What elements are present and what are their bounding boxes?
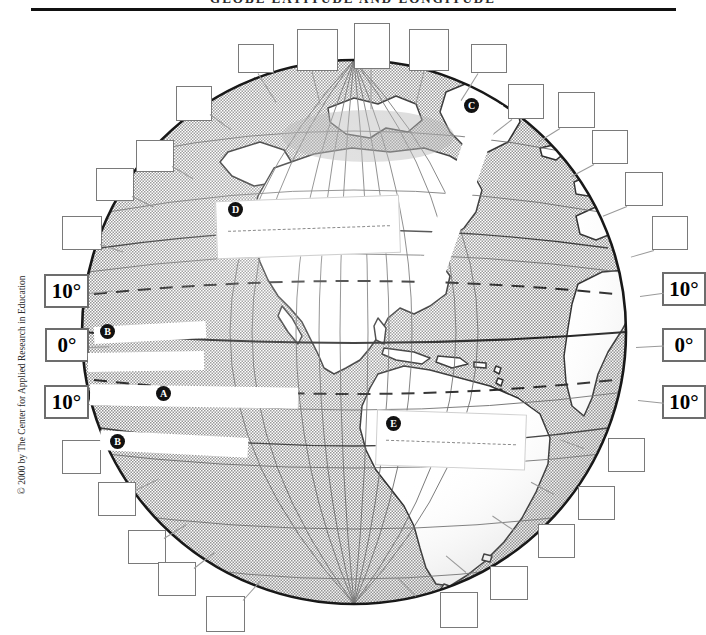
answer-box-23[interactable]: [490, 566, 528, 600]
answer-box-8[interactable]: [96, 168, 134, 201]
answer-box-19[interactable]: [206, 596, 245, 632]
degree-box-left-10n[interactable]: 10°: [44, 274, 89, 308]
answer-box-12[interactable]: [592, 130, 628, 164]
worksheet-page: GLOBE LATITUDE AND LONGITUDE © 2000 by T…: [0, 0, 706, 635]
marker-d[interactable]: D: [228, 202, 243, 217]
page-title: GLOBE LATITUDE AND LONGITUDE: [0, 0, 706, 3]
marker-e[interactable]: E: [386, 416, 401, 431]
answer-box-6[interactable]: [176, 86, 212, 121]
degree-box-left-10s[interactable]: 10°: [44, 385, 89, 419]
leader-right-0: [636, 346, 664, 348]
answer-box-15[interactable]: [62, 440, 101, 474]
answer-box-21[interactable]: [578, 486, 615, 520]
answer-box-17[interactable]: [128, 530, 166, 564]
answer-box-1[interactable]: [238, 44, 274, 73]
degree-box-left-0[interactable]: 0°: [45, 328, 89, 362]
answer-box-2[interactable]: [297, 29, 338, 71]
leader-right-10n: [640, 293, 664, 297]
leader-box-14: [631, 250, 654, 258]
marker-b-lower[interactable]: B: [110, 434, 125, 449]
answer-box-9[interactable]: [62, 216, 102, 250]
answer-box-13[interactable]: [625, 172, 663, 206]
answer-box-20[interactable]: [608, 438, 645, 472]
answer-box-3[interactable]: [354, 23, 390, 69]
answer-box-4[interactable]: [409, 29, 449, 71]
answer-box-11[interactable]: [558, 92, 595, 128]
answer-box-22[interactable]: [538, 524, 575, 558]
answer-box-7[interactable]: [136, 140, 174, 172]
leader-right-10s: [638, 400, 664, 404]
degree-box-right-10s[interactable]: 10°: [662, 385, 706, 419]
copyright-notice: © 2000 by The Center for Applied Researc…: [17, 260, 27, 510]
band-mid-left: [88, 351, 204, 372]
answer-box-14[interactable]: [652, 216, 688, 250]
marker-a[interactable]: A: [156, 386, 171, 401]
answer-box-16[interactable]: [98, 482, 136, 516]
marker-c[interactable]: C: [464, 98, 479, 113]
leader-box-3: [371, 70, 372, 110]
title-rule: [31, 8, 676, 11]
degree-box-right-10n[interactable]: 10°: [662, 272, 706, 306]
answer-box-18[interactable]: [158, 562, 196, 596]
marker-b-upper[interactable]: B: [100, 324, 115, 339]
band-a: [90, 384, 298, 409]
answer-box-24[interactable]: [440, 592, 478, 628]
answer-box-10[interactable]: [508, 84, 544, 119]
answer-box-5[interactable]: [471, 44, 507, 73]
degree-box-right-0[interactable]: 0°: [662, 328, 706, 362]
